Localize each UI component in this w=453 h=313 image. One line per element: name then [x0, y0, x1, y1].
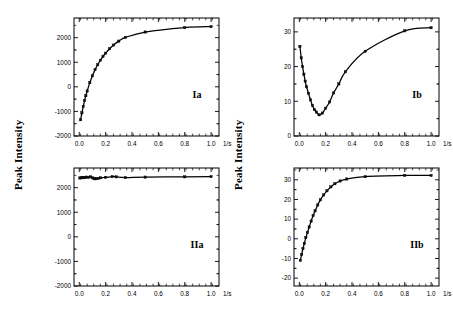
y-tick-label: -1000	[55, 258, 72, 265]
data-point	[301, 65, 303, 67]
data-point	[111, 175, 113, 177]
x-tick-label: 1.0	[207, 140, 216, 147]
data-point	[430, 174, 432, 176]
data-point	[310, 220, 312, 222]
plot-frame	[74, 168, 219, 286]
x-tick-label: 0.0	[75, 290, 84, 297]
data-point	[299, 45, 301, 47]
data-points	[299, 27, 432, 116]
x-tick-label: 0.2	[101, 140, 110, 147]
x-tick-label: 0.8	[180, 290, 189, 297]
data-point	[304, 80, 306, 82]
data-point	[326, 190, 328, 192]
y-tick-label: 2000	[57, 34, 72, 41]
data-point	[317, 204, 319, 206]
data-point	[85, 95, 87, 97]
data-point	[210, 175, 212, 177]
data-point	[184, 176, 186, 178]
panel-iib: 0.00.20.40.60.81.01/s-20-100102030IIb	[264, 164, 443, 304]
data-point	[313, 108, 315, 110]
y-axis-label-left: Peak Intensity	[12, 120, 24, 190]
data-point	[115, 176, 117, 178]
x-tick-label: 0.8	[400, 140, 409, 147]
data-point	[83, 99, 85, 101]
data-point	[124, 176, 126, 178]
x-tick-label: 1.0	[427, 140, 436, 147]
y-tick-label: 1000	[57, 59, 72, 66]
data-point	[312, 214, 314, 216]
data-point	[144, 176, 146, 178]
data-point	[308, 226, 310, 228]
data-point	[99, 177, 101, 179]
data-point	[334, 183, 336, 185]
figure-root: Peak Intensity Peak Intensity 0.00.20.40…	[0, 0, 453, 313]
data-point	[306, 231, 308, 233]
x-tick-label: 0.6	[154, 140, 163, 147]
fit-curve	[81, 27, 212, 120]
data-point	[94, 68, 96, 70]
x-tick-label: 0.8	[400, 290, 409, 297]
data-point	[301, 253, 303, 255]
plot-frame	[294, 168, 439, 286]
y-tick-label: 30	[284, 28, 292, 35]
data-point	[144, 31, 146, 33]
y-tick-label: 10	[284, 98, 292, 105]
x-tick-label: 0.0	[295, 290, 304, 297]
panel-id-label: IIb	[410, 239, 424, 250]
x-tick-label: 0.2	[101, 290, 110, 297]
y-tick-label: 20	[284, 63, 292, 70]
y-tick-label: -2000	[55, 282, 72, 289]
data-point	[303, 242, 305, 244]
data-point	[300, 57, 302, 59]
data-point	[81, 112, 83, 114]
y-tick-label: 1000	[57, 209, 72, 216]
y-tick-label: -2000	[55, 132, 72, 139]
data-point	[311, 104, 313, 106]
x-tick-label: 0.6	[154, 290, 163, 297]
data-point	[108, 48, 110, 50]
data-point	[328, 101, 330, 103]
data-point	[302, 247, 304, 249]
y-axis-label-right: Peak Intensity	[232, 120, 244, 190]
data-point	[91, 75, 93, 77]
data-point	[79, 119, 81, 121]
data-point	[104, 52, 106, 54]
data-point	[319, 199, 321, 201]
data-points	[79, 175, 212, 180]
x-tick-label: 0.8	[180, 140, 189, 147]
panel-id-label: IIa	[191, 239, 204, 250]
panel-iia: 0.00.20.40.60.81.01/s-2000-1000010002000…	[44, 164, 223, 304]
data-point	[404, 30, 406, 32]
data-point	[315, 111, 317, 113]
x-tick-label: 0.4	[128, 290, 137, 297]
x-tick-label: 0.2	[321, 140, 330, 147]
plot-frame	[74, 18, 219, 136]
y-tick-label: 20	[284, 196, 292, 203]
data-point	[430, 27, 432, 29]
x-tick-label: 0.6	[374, 290, 383, 297]
data-point	[338, 83, 340, 85]
data-point	[104, 176, 106, 178]
data-points	[79, 25, 212, 120]
x-tick-label: 0.2	[321, 290, 330, 297]
data-point	[305, 236, 307, 238]
data-point	[124, 36, 126, 38]
data-point	[82, 105, 84, 107]
data-point	[305, 86, 307, 88]
y-tick-label: -20	[282, 274, 292, 281]
x-tick-label: 0.4	[348, 290, 357, 297]
data-point	[86, 90, 88, 92]
data-point	[330, 186, 332, 188]
data-point	[314, 210, 316, 212]
data-point	[364, 50, 366, 52]
y-tick-label: -10	[282, 255, 292, 262]
data-point	[307, 92, 309, 94]
fit-curve	[300, 28, 431, 115]
x-tick-label: 0.4	[348, 140, 357, 147]
y-tick-label: -1000	[55, 108, 72, 115]
data-point	[344, 71, 346, 73]
data-point	[303, 73, 305, 75]
data-point	[102, 55, 104, 57]
data-point	[184, 26, 186, 28]
y-tick-label: 0	[67, 233, 71, 240]
